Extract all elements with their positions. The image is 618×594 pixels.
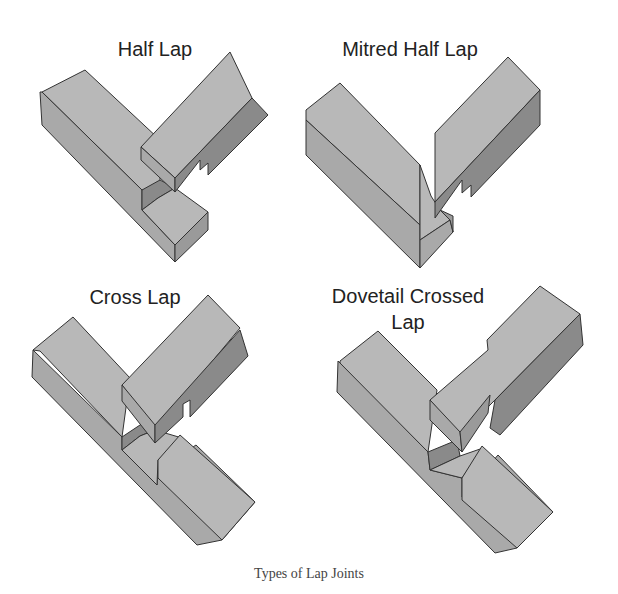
mitred-half-lap-joint <box>306 57 540 268</box>
figure-caption: Types of Lap Joints <box>0 566 618 582</box>
label-half-lap: Half Lap <box>100 37 210 61</box>
label-mitred-half-lap: Mitred Half Lap <box>325 37 495 61</box>
half-lap-joint <box>40 52 268 262</box>
label-dovetail-crossed: Dovetail Crossed <box>313 284 503 308</box>
label-cross-lap: Cross Lap <box>75 285 195 309</box>
cross-lap-joint <box>32 295 255 545</box>
label-dovetail-lap-line2: Lap <box>363 310 453 334</box>
